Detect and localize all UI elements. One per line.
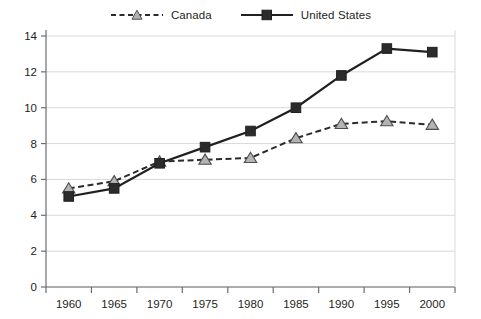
x-axis-tick-labels: 196019651970197519801985199019952000 — [56, 298, 445, 310]
y-tick-label: 0 — [31, 281, 37, 293]
x-tick-label: 1975 — [192, 298, 218, 310]
chart-canvas: 02468101214 1960196519701975198019851990… — [0, 26, 481, 319]
y-tick-label: 12 — [24, 66, 37, 78]
plot-area: 02468101214 1960196519701975198019851990… — [0, 26, 481, 319]
x-tick-label: 1980 — [238, 298, 264, 310]
data-point-square — [200, 142, 210, 152]
x-tick-label: 1990 — [329, 298, 355, 310]
y-tick-label: 10 — [24, 102, 37, 114]
data-point-square — [246, 126, 256, 136]
legend-label-canada: Canada — [171, 9, 212, 21]
x-tick-label: 1985 — [283, 298, 309, 310]
data-point-square — [291, 103, 301, 113]
y-tick-label: 14 — [24, 30, 37, 42]
x-tick-label: 1995 — [374, 298, 400, 310]
data-point-square — [382, 44, 392, 54]
data-series-layer — [63, 44, 439, 202]
data-point-square — [337, 71, 347, 81]
x-tick-label: 1965 — [101, 298, 127, 310]
y-axis-tick-labels: 02468101214 — [24, 30, 37, 293]
legend-label-united-states: United States — [301, 9, 371, 21]
line-chart: Canada United States 02468101214 1960196… — [0, 0, 481, 319]
y-tick-label: 4 — [31, 209, 38, 221]
data-point-square — [155, 158, 165, 168]
x-tick-label: 1960 — [56, 298, 82, 310]
data-point-square — [64, 192, 74, 202]
y-axis-ticks — [41, 36, 46, 287]
y-tick-label: 8 — [31, 138, 37, 150]
y-tick-label: 2 — [31, 245, 37, 257]
y-tick-label: 6 — [31, 173, 37, 185]
legend-item-canada[interactable]: Canada — [110, 8, 212, 22]
chart-legend: Canada United States — [0, 4, 481, 26]
canada-triangle-marker-icon — [110, 8, 164, 22]
series-line-united-states — [69, 49, 433, 197]
x-tick-label: 1970 — [147, 298, 173, 310]
data-point-triangle — [426, 119, 438, 129]
x-axis-ticks — [46, 287, 455, 293]
data-point-square — [109, 184, 119, 194]
x-tick-label: 2000 — [419, 298, 445, 310]
legend-item-united-states[interactable]: United States — [240, 8, 371, 22]
united-states-square-marker-icon — [240, 8, 294, 22]
data-point-square — [427, 47, 437, 57]
